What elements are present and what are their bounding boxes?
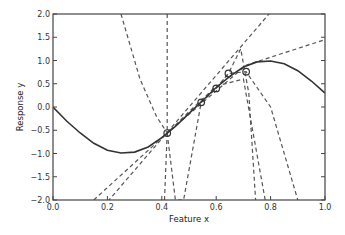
- x-axis: 0.00.20.40.60.81.0: [47, 196, 332, 212]
- x-tick-label: 1.0: [319, 203, 332, 212]
- y-tick-label: −1.5: [31, 173, 50, 182]
- chart: 0.00.20.40.60.81.0 2.01.51.00.50.0−0.5−1…: [0, 0, 345, 235]
- y-axis-label: Response y: [15, 83, 25, 132]
- y-tick-label: −0.5: [31, 126, 50, 135]
- y-tick-label: −2.0: [31, 196, 50, 205]
- fit-line-4: [167, 14, 255, 200]
- y-tick-label: 1.0: [37, 57, 50, 66]
- x-tick-label: 0.2: [101, 203, 114, 212]
- fit-line-2: [94, 40, 325, 200]
- y-axis: 2.01.51.00.50.0−0.5−1.0−1.5−2.0: [31, 10, 325, 205]
- y-tick-label: 2.0: [37, 10, 50, 19]
- y-tick-label: 0.5: [37, 80, 50, 89]
- fit-line-3: [121, 14, 265, 200]
- plot-frame: [53, 14, 325, 200]
- y-tick-label: 0.0: [37, 103, 50, 112]
- fit-line-5: [165, 72, 298, 200]
- x-tick-label: 0.8: [264, 203, 277, 212]
- y-tick-label: −1.0: [31, 150, 50, 159]
- true-curve: [53, 61, 325, 153]
- x-axis-label: Feature x: [169, 214, 209, 224]
- x-tick-label: 0.6: [210, 203, 223, 212]
- y-tick-label: 1.5: [37, 33, 50, 42]
- x-tick-label: 0.4: [155, 203, 168, 212]
